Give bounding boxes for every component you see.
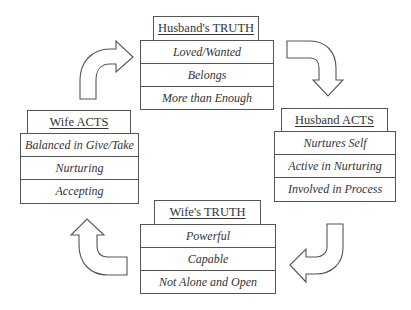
node-wifes-truth: Powerful Capable Not Alone and Open: [140, 224, 276, 294]
node-item: Loved/Wanted: [141, 41, 273, 64]
node-title: Husband ACTS: [295, 113, 374, 128]
node-item: Belongs: [141, 64, 273, 87]
node-item: Active in Nurturing: [275, 155, 395, 178]
node-item: Nurturing: [21, 157, 138, 180]
node-item: Accepting: [21, 180, 138, 203]
node-item: Involved in Process: [275, 178, 395, 201]
curved-arrow-left-up-icon: [71, 219, 127, 275]
node-item: Not Alone and Open: [141, 271, 275, 294]
node-husbands-truth-title: Husband's TRUTH: [153, 16, 259, 41]
curved-arrow-right-down-icon: [287, 41, 343, 96]
node-item: Balanced in Give/Take: [21, 134, 138, 157]
node-husband-acts: Nurtures Self Active in Nurturing Involv…: [274, 131, 396, 202]
node-item: Powerful: [141, 225, 275, 248]
node-wifes-truth-title: Wife's TRUTH: [154, 200, 261, 225]
node-title: Wife ACTS: [50, 115, 109, 130]
node-wife-acts: Balanced in Give/Take Nurturing Acceptin…: [20, 133, 139, 204]
node-item: Nurtures Self: [275, 132, 395, 155]
node-husbands-truth: Loved/Wanted Belongs More than Enough: [140, 40, 274, 110]
node-wife-acts-title: Wife ACTS: [27, 110, 131, 134]
node-title: Husband's TRUTH: [158, 21, 254, 36]
curved-arrow-down-left-icon: [290, 224, 343, 282]
node-husband-acts-title: Husband ACTS: [281, 108, 388, 132]
node-item: Capable: [141, 248, 275, 271]
curved-arrow-up-right-icon: [80, 41, 133, 99]
node-item: More than Enough: [141, 87, 273, 110]
node-title: Wife's TRUTH: [169, 205, 245, 220]
